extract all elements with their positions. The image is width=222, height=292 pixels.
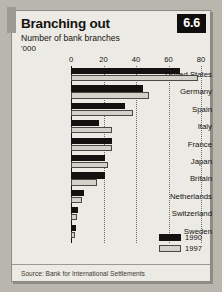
x-tick-40: 40	[132, 55, 140, 64]
chart-row: Switzerland	[12, 207, 212, 224]
bar-1990	[71, 138, 112, 144]
chart-row: United States	[12, 68, 212, 85]
category-label: Britain	[158, 174, 212, 183]
chart-row: France	[12, 138, 212, 155]
bar-1990	[71, 190, 84, 196]
bar-1990	[71, 172, 105, 178]
chart-title: Branching out	[21, 16, 110, 31]
category-label: France	[158, 140, 212, 149]
unit-label: '000	[21, 44, 36, 53]
category-label: Switzerland	[158, 209, 212, 218]
bar-chart-plot: 020406080 United StatesGermanySpainItaly…	[12, 55, 212, 245]
x-tick-0: 0	[69, 55, 73, 64]
bar-1997	[71, 145, 112, 151]
bar-1997	[71, 110, 133, 116]
bar-1990	[71, 68, 180, 74]
bar-1997	[71, 232, 75, 238]
legend-swatch-1997	[159, 245, 181, 252]
bar-1990	[71, 155, 105, 161]
legend-item-1997: 1997	[159, 244, 202, 253]
bar-1997	[71, 92, 149, 98]
chart-header: Branching out Number of bank branches '0…	[12, 11, 210, 55]
bar-1997	[71, 214, 77, 220]
legend-label: 1990	[185, 233, 202, 242]
x-tick-20: 20	[99, 55, 107, 64]
legend-swatch-1990	[159, 234, 181, 241]
chart-row: Netherlands	[12, 190, 212, 207]
chart-row: Spain	[12, 103, 212, 120]
bar-1997	[71, 127, 112, 133]
legend-item-1990: 1990	[159, 233, 202, 242]
chart-panel: Branching out Number of bank branches '0…	[11, 10, 211, 282]
footer-divider	[12, 264, 210, 265]
bar-1997	[71, 75, 198, 81]
chart-row: Japan	[12, 155, 212, 172]
figure-number-badge: 6.6	[177, 14, 206, 33]
bar-1990	[71, 85, 143, 91]
x-tick-80: 80	[197, 55, 205, 64]
category-label: Germany	[158, 87, 212, 96]
chart-legend: 19901997	[159, 233, 202, 255]
chart-subtitle: Number of bank branches	[21, 33, 120, 43]
x-tick-60: 60	[164, 55, 172, 64]
source-note: Source: Bank for International Settlemen…	[21, 270, 145, 277]
chart-row: Britain	[12, 172, 212, 189]
legend-label: 1997	[185, 244, 202, 253]
bar-1990	[71, 207, 78, 213]
category-label: Japan	[158, 157, 212, 166]
bar-1990	[71, 225, 76, 231]
bar-1997	[71, 197, 82, 203]
category-label: Spain	[158, 105, 212, 114]
bar-1997	[71, 179, 97, 185]
chart-row: Germany	[12, 85, 212, 102]
chart-row: Italy	[12, 120, 212, 137]
bar-1990	[71, 103, 125, 109]
bar-1997	[71, 162, 108, 168]
category-label: Netherlands	[158, 192, 212, 201]
bar-1990	[71, 120, 99, 126]
category-label: Italy	[158, 122, 212, 131]
